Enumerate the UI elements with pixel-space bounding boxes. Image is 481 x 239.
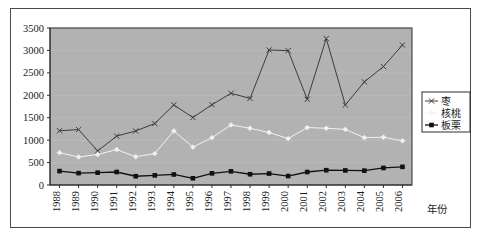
data-point-marker bbox=[429, 123, 434, 128]
data-point-marker bbox=[305, 170, 310, 175]
legend-item-label: 板栗 bbox=[441, 119, 461, 131]
data-point-marker bbox=[114, 170, 119, 175]
x-axis-tick-label: 2001 bbox=[298, 191, 309, 212]
x-axis-tick-label: 1993 bbox=[146, 191, 157, 212]
x-axis-tick-label: 1989 bbox=[70, 191, 81, 212]
x-axis-tick-label: 2004 bbox=[355, 190, 366, 212]
x-axis-tick-label: 1997 bbox=[222, 191, 233, 212]
x-axis-tick-label: 1998 bbox=[241, 191, 252, 212]
data-point-marker bbox=[57, 169, 62, 174]
y-axis-tick-label: 1000 bbox=[23, 135, 44, 146]
data-point-marker bbox=[286, 174, 291, 179]
y-axis: 0500100015002000250030003500 bbox=[23, 23, 50, 191]
x-axis-tick-label: 1995 bbox=[184, 191, 195, 212]
x-axis-tick-label: 1994 bbox=[165, 190, 176, 212]
x-axis-tick-label: 2002 bbox=[317, 191, 328, 212]
data-point-marker bbox=[76, 171, 81, 176]
line-chart: 0500100015002000250030003500 19881989199… bbox=[0, 0, 481, 239]
data-point-marker bbox=[152, 173, 157, 178]
y-axis-tick-label: 500 bbox=[28, 157, 44, 168]
y-axis-tick-label: 1500 bbox=[23, 112, 44, 123]
x-axis-tick-label: 1991 bbox=[108, 191, 119, 212]
y-axis-tick-label: 0 bbox=[39, 180, 44, 191]
legend-item-label: 枣 bbox=[441, 96, 451, 107]
x-axis-tick-label: 2005 bbox=[374, 191, 385, 212]
x-axis-tick-label: 1990 bbox=[89, 191, 100, 212]
y-axis-tick-label: 2000 bbox=[23, 90, 44, 101]
data-point-marker bbox=[248, 172, 253, 177]
x-axis-tick-label: 2003 bbox=[336, 191, 347, 212]
x-axis-tick-label: 1988 bbox=[51, 191, 62, 212]
data-point-marker bbox=[362, 168, 367, 173]
data-point-marker bbox=[172, 172, 177, 177]
x-axis-title: 年份 bbox=[427, 203, 448, 215]
data-point-marker bbox=[343, 168, 348, 173]
data-point-marker bbox=[229, 169, 234, 174]
y-axis-tick-label: 3500 bbox=[23, 23, 44, 34]
data-point-marker bbox=[324, 168, 329, 173]
data-point-marker bbox=[95, 170, 100, 175]
data-point-marker bbox=[191, 176, 196, 181]
data-point-marker bbox=[210, 171, 215, 176]
x-axis-tick-label: 1996 bbox=[203, 191, 214, 212]
x-axis-tick-label: 1999 bbox=[260, 191, 271, 212]
x-axis-tick-label: 1992 bbox=[127, 191, 138, 212]
data-point-marker bbox=[133, 174, 138, 179]
data-point-marker bbox=[400, 165, 405, 170]
x-axis-tick-label: 2000 bbox=[279, 191, 290, 212]
plot-area-background bbox=[50, 28, 412, 185]
x-axis-tick-label: 2006 bbox=[393, 191, 404, 212]
data-point-marker bbox=[381, 166, 386, 171]
legend-item-label: 核桃 bbox=[441, 107, 461, 119]
chart-legend: 枣核桃板栗 bbox=[422, 92, 470, 132]
y-axis-tick-label: 3000 bbox=[23, 45, 44, 56]
x-axis: 1988198919901991199219931994199519961997… bbox=[50, 185, 412, 212]
data-point-marker bbox=[267, 171, 272, 176]
y-axis-tick-label: 2500 bbox=[23, 67, 44, 78]
